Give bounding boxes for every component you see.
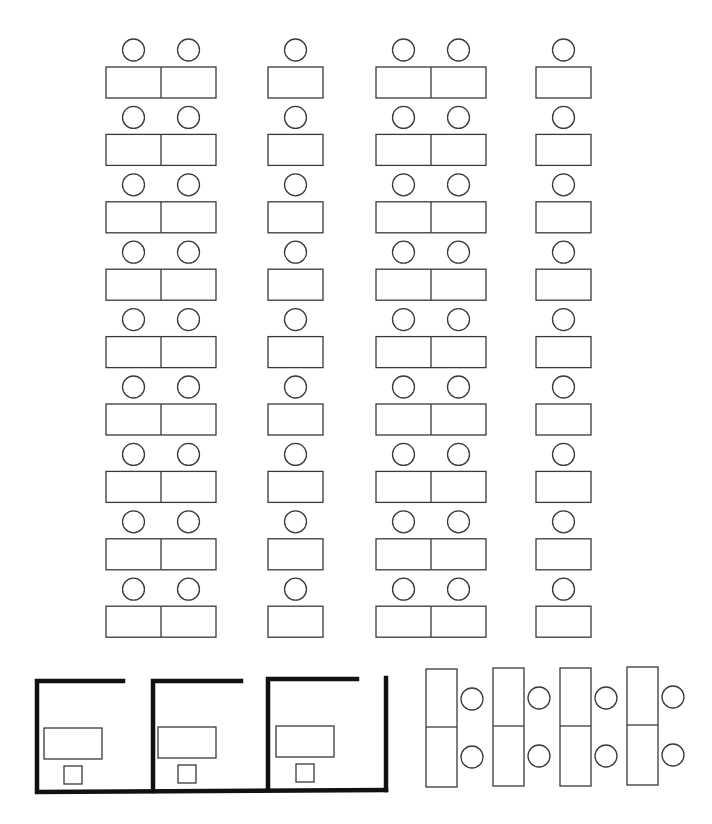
double-workstation [106,309,216,368]
double-workstation [106,511,216,570]
desk [268,471,323,502]
chair [178,106,200,128]
chair [123,376,145,398]
office-chair [296,764,314,782]
chair [123,39,145,61]
chair [553,443,575,465]
single-workstation [536,376,591,435]
single-workstation [536,241,591,300]
meeting-cluster [493,668,550,786]
chair [285,309,307,331]
desk [268,539,323,570]
double-workstation [376,578,486,637]
double-workstation [106,376,216,435]
single-workstation [536,578,591,637]
desk [426,669,457,787]
chair [393,174,415,196]
chair [285,376,307,398]
desk-row [106,241,591,300]
chair [553,39,575,61]
chair [178,376,200,398]
desk [536,202,591,233]
office-desk [276,726,334,757]
office-chair [178,765,196,783]
chair [461,746,483,768]
chair [393,578,415,600]
chair [123,106,145,128]
double-workstation [106,39,216,98]
desk [268,404,323,435]
chair [393,241,415,263]
double-workstation [376,241,486,300]
desk-row [106,376,591,435]
chair [123,241,145,263]
desk [536,404,591,435]
double-workstation [376,309,486,368]
chair [461,688,483,710]
chair [553,376,575,398]
desk [268,67,323,98]
chair [285,174,307,196]
office-desk [158,727,216,758]
chair [448,106,470,128]
chair [178,511,200,533]
chair [448,511,470,533]
chair [123,309,145,331]
chair [393,376,415,398]
single-workstation [268,376,323,435]
desk-row [106,511,591,570]
chair [178,443,200,465]
chair [285,106,307,128]
meeting-clusters [426,667,684,787]
single-workstation [536,39,591,98]
double-workstation [106,443,216,502]
meeting-cluster [627,667,684,785]
office-chair [64,766,82,784]
chair [553,106,575,128]
office-1 [44,728,102,784]
desk [268,337,323,368]
chair [553,174,575,196]
chair [553,511,575,533]
double-workstation [376,511,486,570]
single-workstation [268,174,323,233]
single-workstation [536,106,591,165]
office-2 [158,727,216,783]
chair [123,174,145,196]
single-workstation [536,174,591,233]
chair [123,443,145,465]
chair [178,39,200,61]
private-offices [37,678,386,792]
chair [178,578,200,600]
desk [268,269,323,300]
chair [448,241,470,263]
desk-row [106,106,591,165]
chair [448,309,470,331]
desk [536,539,591,570]
double-workstation [376,106,486,165]
chair [178,241,200,263]
double-workstation [376,39,486,98]
chair [662,744,684,766]
chair [393,511,415,533]
chair [448,39,470,61]
desk-row [106,578,591,637]
double-workstation [106,106,216,165]
desk [536,606,591,637]
chair [595,745,617,767]
desk [536,269,591,300]
desk [560,668,591,786]
chair [178,174,200,196]
desk [268,134,323,165]
chair [662,686,684,708]
chair [393,443,415,465]
open-plan-area [106,39,591,637]
chair [528,745,550,767]
single-workstation [268,241,323,300]
desk-row [106,309,591,368]
desk-row [106,443,591,502]
desk [268,202,323,233]
chair [448,174,470,196]
single-workstation [268,443,323,502]
double-workstation [106,174,216,233]
